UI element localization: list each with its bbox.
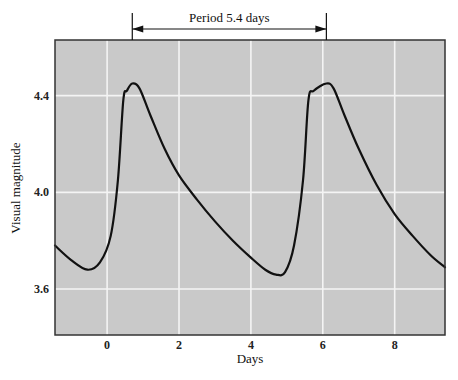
x-tick-label: 6 [320, 338, 326, 352]
x-tick-label: 8 [392, 338, 398, 352]
y-axis-label: Visual magnitude [8, 142, 23, 234]
y-axis-ticks: 3.64.04.4 [34, 89, 49, 296]
period-annotation: Period 5.4 days [132, 10, 326, 40]
x-axis-label: Days [237, 351, 264, 366]
x-tick-label: 2 [176, 338, 182, 352]
light-curve-chart: Period 5.4 days 02468 3.64.04.4 Days Vis… [0, 0, 458, 380]
x-axis-ticks: 02468 [104, 338, 398, 352]
x-tick-label: 4 [248, 338, 254, 352]
x-tick-label: 0 [104, 338, 110, 352]
y-tick-label: 4.4 [34, 89, 49, 103]
period-label: Period 5.4 days [189, 10, 270, 25]
y-tick-label: 4.0 [34, 185, 49, 199]
y-tick-label: 3.6 [34, 282, 49, 296]
arrowhead-left-icon [132, 26, 143, 33]
plot-area [55, 40, 445, 335]
arrowhead-right-icon [315, 26, 326, 33]
